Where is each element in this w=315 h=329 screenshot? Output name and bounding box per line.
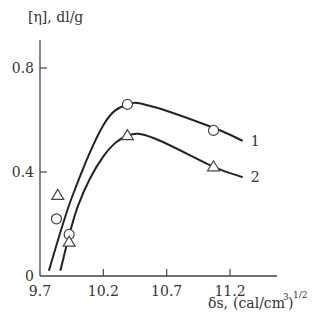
circle-marker [122, 99, 132, 109]
y-tick-label: 0 [25, 268, 34, 284]
x-tick-label: 9.7 [29, 283, 51, 299]
axes [40, 40, 277, 276]
series-label-1: 1 [251, 133, 260, 149]
curve-2 [60, 134, 242, 271]
x-axis-label-symbol: δs, [208, 295, 228, 311]
y-axis-label: [η], dl/g [28, 9, 83, 25]
circle-marker [209, 125, 219, 135]
x-axis-label-unit: (cal/cm [233, 295, 285, 311]
y-ticks: 00.40.8 [12, 60, 47, 284]
y-tick-label: 0.8 [12, 60, 34, 76]
circle-marker [51, 214, 61, 224]
x-axis-label-exp: 1/2 [293, 290, 307, 300]
chart: 00.40.8 9.710.210.711.2 12 [η], dl/g δs,… [0, 0, 315, 329]
y-tick-label: 0.4 [12, 164, 34, 180]
series-label-2: 2 [251, 169, 260, 185]
series-labels: 12 [251, 133, 260, 185]
x-tick-label: 10.7 [151, 283, 182, 299]
x-tick-label: 10.2 [88, 283, 119, 299]
triangle-marker [52, 189, 64, 199]
